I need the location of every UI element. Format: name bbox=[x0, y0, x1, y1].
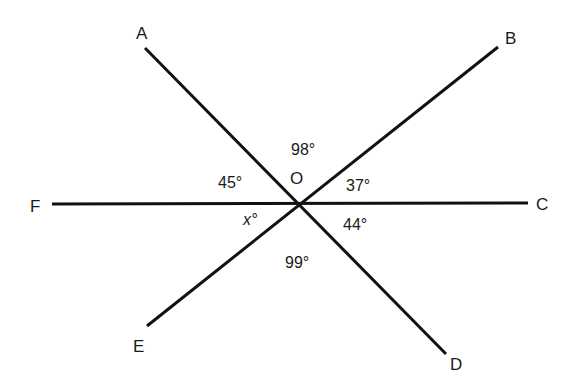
line-AD bbox=[145, 48, 446, 354]
point-label-D: D bbox=[450, 355, 462, 374]
point-label-B: B bbox=[505, 29, 516, 48]
angle-label-FOA: 45° bbox=[218, 174, 242, 191]
point-label-F: F bbox=[30, 197, 40, 216]
line-FC bbox=[52, 203, 528, 204]
angle-label-COD: 44° bbox=[343, 216, 367, 233]
angle-label-DOE: 99° bbox=[285, 254, 309, 271]
angle-label-EOF: x° bbox=[242, 211, 258, 228]
angle-diagram: A B C D E F O 98° 45° 37° 44° 99° x° bbox=[0, 0, 573, 389]
point-label-C: C bbox=[536, 195, 548, 214]
angle-label-AOB: 98° bbox=[291, 141, 315, 158]
angle-label-BOC: 37° bbox=[346, 177, 370, 194]
point-label-A: A bbox=[136, 24, 148, 43]
center-label-O: O bbox=[290, 169, 303, 188]
point-label-E: E bbox=[133, 337, 144, 356]
line-BE bbox=[147, 47, 498, 326]
